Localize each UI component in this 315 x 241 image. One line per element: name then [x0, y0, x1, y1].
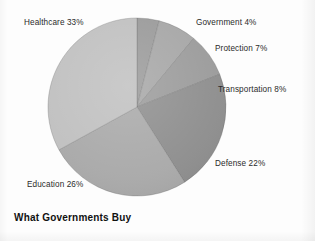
slice-label-transportation: Transportation 8% — [218, 85, 286, 94]
slice-label-education: Education 26% — [27, 180, 83, 189]
pie-chart-graphic — [0, 0, 315, 241]
slice-label-defense: Defense 22% — [215, 159, 265, 168]
pie-chart-figure: Healthcare 33% Government 4% Protection … — [0, 0, 315, 241]
slice-label-healthcare: Healthcare 33% — [24, 18, 84, 27]
chart-title: What Governments Buy — [14, 212, 131, 223]
slice-label-protection: Protection 7% — [215, 44, 267, 53]
pie-paper-sheen — [48, 18, 226, 196]
slice-label-government: Government 4% — [196, 18, 256, 27]
